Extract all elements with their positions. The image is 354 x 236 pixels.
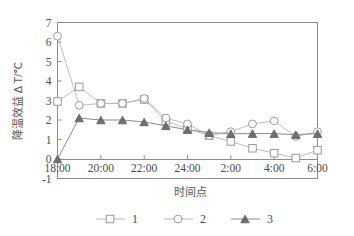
y-tick-label: 4 [46,75,52,87]
y-axis-title: 降温效益 Δ T/℃ [11,62,24,141]
marker-open-square [292,154,300,162]
x-tick-label: 20:00 [88,162,114,174]
x-axis-title: 时间点 [174,186,207,198]
marker-open-circle [75,101,83,109]
y-tick-label: 3 [46,95,52,107]
marker-open-square [54,98,62,106]
y-tick-label: 6 [46,36,52,48]
marker-open-circle [97,100,105,108]
legend-label-3: 3 [267,212,273,226]
series-layer [53,32,321,163]
marker-open-square [106,215,114,223]
x-tick-label: 18:00 [44,162,70,174]
marker-open-square [75,83,83,91]
x-axis-ticks: 18:0020:0022:0024:002:004:006:00 [44,155,328,174]
marker-open-circle [174,215,182,223]
marker-open-circle [270,117,278,125]
chart-figure: -101234567 18:0020:0022:0024:002:004:006… [0,0,354,236]
marker-open-circle [249,120,257,128]
chart-legend: 123 [96,212,273,226]
y-tick-label: 5 [46,56,52,68]
marker-open-circle [54,32,62,40]
y-tick-label: 2 [46,114,52,126]
y-tick-label: 7 [46,17,52,29]
y-tick-label: 1 [46,134,52,146]
chart-canvas: -101234567 18:0020:0022:0024:002:004:006… [0,0,354,236]
marker-open-circle [140,95,148,103]
x-tick-label: 2:00 [221,162,242,174]
marker-open-circle [162,114,170,122]
series-markers-2 [54,32,322,140]
x-tick-label: 24:00 [174,162,200,174]
marker-open-circle [119,100,127,108]
y-tick-label: -1 [42,173,52,185]
marker-open-square [249,145,257,153]
x-tick-label: 6:00 [307,162,328,174]
legend-label-1: 1 [132,212,138,226]
legend-label-2: 2 [200,212,206,226]
marker-open-square [227,138,235,146]
marker-open-square [270,149,278,157]
x-tick-label: 22:00 [131,162,157,174]
marker-open-square [314,146,322,154]
x-tick-label: 4:00 [264,162,285,174]
